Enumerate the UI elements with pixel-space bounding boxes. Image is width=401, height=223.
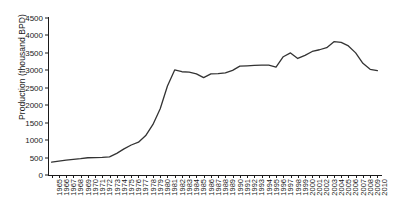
x-tick-mark-1970 [88, 175, 89, 178]
x-tick-mark-1997 [283, 175, 284, 178]
x-axis-line [48, 175, 382, 176]
x-tick-mark-1984 [189, 175, 190, 178]
x-tick-mark-2006 [348, 175, 349, 178]
x-tick-mark-1979 [153, 175, 154, 178]
x-tick-mark-2005 [341, 175, 342, 178]
x-tick-mark-2009 [370, 175, 371, 178]
x-tick-mark-1995 [269, 175, 270, 178]
x-tick-mark-2010 [377, 175, 378, 178]
x-tick-mark-1990 [233, 175, 234, 178]
x-tick-mark-1980 [160, 175, 161, 178]
x-tick-mark-1978 [146, 175, 147, 178]
x-tick-mark-1988 [218, 175, 219, 178]
x-tick-mark-2002 [319, 175, 320, 178]
x-tick-mark-1973 [110, 175, 111, 178]
x-tick-mark-1965 [52, 175, 53, 178]
x-tick-mark-1996 [276, 175, 277, 178]
x-tick-mark-1986 [204, 175, 205, 178]
x-tick-mark-1968 [73, 175, 74, 178]
x-tick-mark-2008 [363, 175, 364, 178]
x-tick-mark-1991 [240, 175, 241, 178]
x-tick-mark-2003 [327, 175, 328, 178]
x-tick-mark-2007 [356, 175, 357, 178]
x-tick-mark-1971 [95, 175, 96, 178]
x-tick-mark-1982 [175, 175, 176, 178]
x-tick-mark-1983 [182, 175, 183, 178]
x-tick-mark-1985 [196, 175, 197, 178]
x-tick-mark-1977 [138, 175, 139, 178]
x-tick-mark-1966 [59, 175, 60, 178]
x-tick-mark-1994 [262, 175, 263, 178]
x-tick-mark-2004 [334, 175, 335, 178]
x-tick-mark-2001 [312, 175, 313, 178]
x-tick-mark-1967 [66, 175, 67, 178]
plot-area: 050010001500200025003000350040004500 196… [48, 18, 381, 175]
series-line [48, 18, 381, 175]
x-tick-mark-1976 [131, 175, 132, 178]
x-tick-mark-1998 [291, 175, 292, 178]
x-tick-mark-1974 [117, 175, 118, 178]
x-tick-mark-1969 [81, 175, 82, 178]
x-tick-mark-1992 [247, 175, 248, 178]
x-tick-mark-1993 [254, 175, 255, 178]
x-tick-mark-1989 [225, 175, 226, 178]
production-line-chart: Production (thousand BPD) 05001000150020… [0, 0, 401, 223]
x-tick-mark-1999 [298, 175, 299, 178]
x-tick-mark-2000 [305, 175, 306, 178]
x-tick-mark-1975 [124, 175, 125, 178]
x-tick-mark-1972 [102, 175, 103, 178]
x-tick-label-2010: 2010 [380, 179, 389, 196]
production-series-polyline [52, 42, 378, 162]
x-tick-mark-1987 [211, 175, 212, 178]
x-tick-mark-1981 [167, 175, 168, 178]
